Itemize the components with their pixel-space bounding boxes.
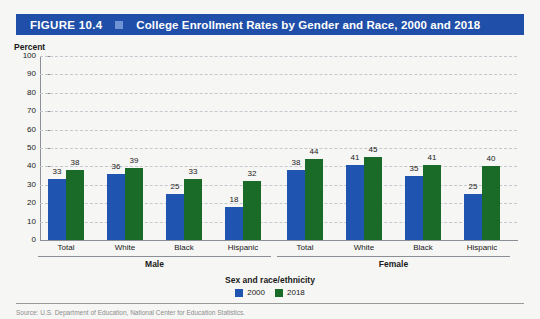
y-axis-tick-label: 20 [12,198,36,207]
figure-number: FIGURE 10.4 [30,19,102,31]
x-axis-category-label: White [95,243,155,252]
bar: 25 [464,194,482,240]
x-axis-line [40,240,518,241]
bar-value-label: 33 [189,167,198,176]
y-axis-tick-label: 80 [12,88,36,97]
group-rule [277,256,510,257]
legend-swatch-icon [275,289,283,297]
square-marker-icon [115,21,123,29]
x-axis-category-label: White [334,243,394,252]
chart-legend: 20002018 [0,288,540,297]
bar-pair: 2540 [464,56,500,240]
bar-pair: 3639 [107,56,143,240]
bar-value-label: 35 [410,164,419,173]
bar: 25 [166,194,184,240]
legend-label: 2000 [247,288,265,297]
bar: 33 [48,179,66,240]
bar: 33 [184,179,202,240]
bar-value-label: 41 [351,153,360,162]
legend-swatch-icon [235,289,243,297]
legend-item: 2000 [235,288,265,297]
bar: 39 [125,168,143,240]
bar: 18 [225,207,243,240]
footer-divider [16,303,524,304]
bar-pair: 1832 [225,56,261,240]
figure-header-bar: FIGURE 10.4 College Enrollment Rates by … [16,14,524,35]
bar: 44 [305,159,323,240]
bar-value-label: 44 [310,147,319,156]
bar-pair: 4145 [346,56,382,240]
bar: 41 [346,165,364,240]
x-axis-category-label: Black [393,243,453,252]
bar-pair: 3541 [405,56,441,240]
bar-value-label: 38 [71,158,80,167]
bar-pair: 3338 [48,56,84,240]
group-rule [38,256,271,257]
y-axis-tick-label: 90 [12,69,36,78]
bar-value-label: 32 [248,169,257,178]
x-axis-category-label: Total [275,243,335,252]
bar-value-label: 39 [130,156,139,165]
bar-value-label: 25 [469,182,478,191]
x-axis-group-label: Female [277,259,510,269]
x-axis-group-label: Male [38,259,271,269]
y-axis-tick-label: 40 [12,161,36,170]
y-axis-tick-label: 100 [12,51,36,60]
legend-label: 2018 [287,288,305,297]
bar-value-label: 18 [230,195,239,204]
bar-value-label: 33 [53,167,62,176]
bar: 36 [107,174,125,240]
bar-value-label: 41 [428,153,437,162]
bar-value-label: 36 [112,162,121,171]
bar-value-label: 38 [292,158,301,167]
y-axis-tick-label: 50 [12,143,36,152]
bar-value-label: 45 [369,145,378,154]
x-axis-category-label: Total [36,243,96,252]
bar-pair: 3844 [287,56,323,240]
figure-title: College Enrollment Rates by Gender and R… [136,19,480,31]
x-axis-category-label: Hispanic [452,243,512,252]
x-axis-category-label: Black [154,243,214,252]
source-note: Source: U.S. Department of Education, Na… [16,307,524,318]
y-axis-tick-label: 70 [12,106,36,115]
bar-value-label: 40 [487,154,496,163]
bar: 35 [405,176,423,240]
bar-value-label: 25 [171,182,180,191]
bar: 32 [243,181,261,240]
y-axis-tick-label: 30 [12,180,36,189]
bar: 41 [423,165,441,240]
x-axis-title: Sex and race/ethnicity [0,275,540,285]
y-axis-tick-label: 0 [12,235,36,244]
bar: 40 [482,166,500,240]
bar: 38 [66,170,84,240]
plot-area: 33383639253318323844414535412540 [40,56,517,240]
y-axis-tick-label: 10 [12,217,36,226]
y-axis-tick-labels: 1009080706050403020100 [10,56,36,241]
bar: 45 [364,157,382,240]
legend-item: 2018 [275,288,305,297]
bar: 38 [287,170,305,240]
x-axis-category-label: Hispanic [213,243,273,252]
y-axis-tick-label: 60 [12,125,36,134]
bar-pair: 2533 [166,56,202,240]
